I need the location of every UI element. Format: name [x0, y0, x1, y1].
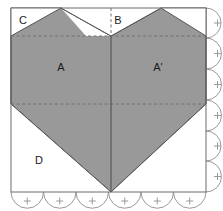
piece-label-b: B: [114, 14, 121, 26]
scallop-tick-right-2: [214, 50, 221, 57]
scallop-group-bottom: [11, 192, 206, 208]
piece-label-a-prime: A': [153, 61, 162, 73]
diagram-canvas: C B A A' D: [0, 0, 223, 211]
piece-label-d: D: [35, 154, 43, 166]
scallop-tick-right-4: [214, 112, 221, 119]
piece-label-a: A: [57, 61, 65, 73]
scallop-tick-right-5: [214, 143, 221, 150]
scallop-tick-group-bottom: [24, 198, 194, 205]
scallop-tick-right-3: [214, 81, 221, 88]
scallop-group-right: [206, 8, 222, 192]
scallop-tick-bottom-6: [186, 198, 193, 205]
scallop-tick-right-1: [214, 20, 221, 27]
scallop-tick-bottom-3: [89, 198, 96, 205]
scallop-tick-bottom-1: [24, 198, 31, 205]
scallop-tick-bottom-2: [56, 198, 63, 205]
scallop-tick-bottom-4: [121, 198, 128, 205]
scallop-tick-right-6: [214, 173, 221, 180]
heart-block-diagram: C B A A' D: [0, 0, 223, 211]
scallop-tick-bottom-5: [154, 198, 161, 205]
piece-label-c: C: [19, 14, 27, 26]
